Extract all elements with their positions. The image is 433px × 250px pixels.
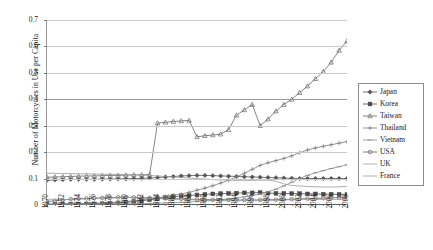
- y-axis-tick-label: 0.4: [14, 95, 38, 103]
- legend-item-korea[interactable]: Korea: [362, 98, 421, 110]
- x-axis-tick-label: 1978: [105, 194, 113, 228]
- legend-item-label: Thailand: [378, 123, 406, 133]
- gridline: [47, 152, 347, 153]
- legend-item-vietnam[interactable]: Vietnam: [362, 134, 421, 146]
- y-axis-tick-label: 0.1: [14, 175, 38, 183]
- series-taiwan: [47, 39, 347, 179]
- legend-marker-icon: [362, 87, 378, 97]
- y-axis-tick: [44, 46, 47, 47]
- x-axis-tick-label: 1988: [184, 194, 192, 228]
- legend-item-japan[interactable]: Japan: [362, 86, 421, 98]
- legend-item-label: Japan: [378, 87, 397, 97]
- legend-item-label: USA: [378, 147, 395, 157]
- legend-item-thailand[interactable]: Thailand: [362, 122, 421, 134]
- series-canvas: [47, 20, 347, 205]
- x-axis-tick-label: 2008: [342, 194, 350, 228]
- x-axis-tick-label: 1974: [74, 194, 82, 228]
- legend-item-usa[interactable]: USA: [362, 146, 421, 158]
- chart-legend: JapanKoreaTaiwanThailandVietnamUSAUKFran…: [358, 83, 424, 186]
- y-axis-tick-label: 0.7: [14, 16, 38, 24]
- legend-item-uk[interactable]: UK: [362, 158, 421, 170]
- y-axis-tick: [44, 126, 47, 127]
- legend-marker-icon: [362, 171, 378, 181]
- legend-marker-icon: [362, 147, 378, 157]
- y-axis-tick-label: 0: [14, 201, 38, 209]
- y-axis-tick-label: 0.6: [14, 42, 38, 50]
- gridline: [47, 46, 347, 47]
- gridline: [47, 73, 347, 74]
- legend-marker-icon: [362, 123, 378, 133]
- x-axis-tick-label: 1992: [216, 194, 224, 228]
- y-axis-tick-label: 0.3: [14, 122, 38, 130]
- series-line: [47, 41, 347, 177]
- legend-marker-icon: [362, 111, 378, 121]
- x-axis-tick-label: 1980: [121, 194, 129, 228]
- x-axis-tick-label: 1976: [89, 194, 97, 228]
- legend-item-label: France: [378, 171, 400, 181]
- x-axis-tick-label: 2004: [310, 194, 318, 228]
- y-axis-tick: [44, 73, 47, 74]
- chart-figure: Number of Motorcycles in Use per Capita …: [0, 0, 433, 250]
- y-axis-tick-label: 0.5: [14, 69, 38, 77]
- x-axis-tick-label: 1998: [263, 194, 271, 228]
- y-axis-tick: [44, 99, 47, 100]
- gridline: [47, 126, 347, 127]
- x-axis-tick-label: 1982: [137, 194, 145, 228]
- legend-item-france[interactable]: France: [362, 170, 421, 182]
- y-axis-tick-labels: 00.10.20.30.40.50.60.7: [12, 0, 38, 250]
- x-axis-tick-label: 1970: [42, 194, 50, 228]
- x-axis-tick-label: 1990: [200, 194, 208, 228]
- gridline: [47, 179, 347, 180]
- legend-item-label: UK: [378, 159, 391, 169]
- gridline: [47, 20, 347, 21]
- x-axis-tick-label: 1984: [153, 194, 161, 228]
- x-axis-tick-label: 1986: [168, 194, 176, 228]
- y-axis-tick-label: 0.2: [14, 148, 38, 156]
- legend-item-label: Taiwan: [378, 111, 402, 121]
- y-axis-tick: [44, 152, 47, 153]
- y-axis-tick: [44, 179, 47, 180]
- legend-item-taiwan[interactable]: Taiwan: [362, 110, 421, 122]
- legend-item-label: Korea: [378, 99, 398, 109]
- x-axis-tick-label: 1996: [247, 194, 255, 228]
- x-axis-tick-label: 1994: [231, 194, 239, 228]
- x-axis-tick-labels: 1970197219741976197819801982198419861988…: [46, 205, 346, 250]
- y-axis-tick: [44, 20, 47, 21]
- legend-marker-icon: [362, 99, 378, 109]
- x-axis-tick-label: 2006: [326, 194, 334, 228]
- plot-area: [46, 20, 346, 205]
- legend-item-label: Vietnam: [378, 135, 405, 145]
- x-axis-tick-label: 1972: [58, 194, 66, 228]
- x-axis-tick-label: 2000: [279, 194, 287, 228]
- x-axis-tick-label: 2002: [295, 194, 303, 228]
- legend-marker-icon: [362, 159, 378, 169]
- gridline: [47, 99, 347, 100]
- legend-marker-icon: [362, 135, 378, 145]
